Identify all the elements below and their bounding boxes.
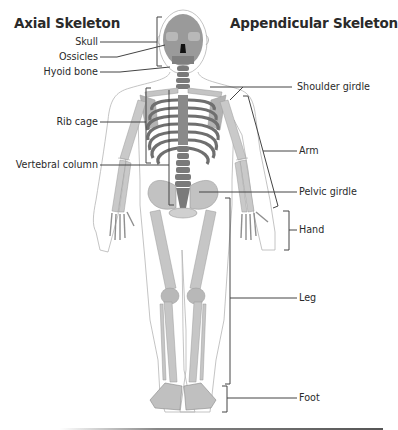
label-rib-cage: Rib cage [10,116,98,128]
label-hyoid-bone: Hyoid bone [10,66,98,78]
label-foot: Foot [299,392,320,404]
label-shoulder-girdle: Shoulder girdle [297,81,370,93]
skull-bone [158,14,209,66]
vertebral-column-bones [175,146,191,208]
label-skull: Skull [30,36,98,48]
label-pelvic-girdle: Pelvic girdle [299,186,357,198]
label-vertebral-column: Vertebral column [0,159,98,171]
label-leg: Leg [299,292,316,304]
label-arm: Arm [299,145,319,157]
label-ossicles: Ossicles [30,51,98,63]
label-hand: Hand [299,224,324,236]
leader-lines [100,17,297,412]
leg-bones [150,210,216,382]
sternum [178,95,188,145]
cervical-vertebrae [176,66,190,89]
